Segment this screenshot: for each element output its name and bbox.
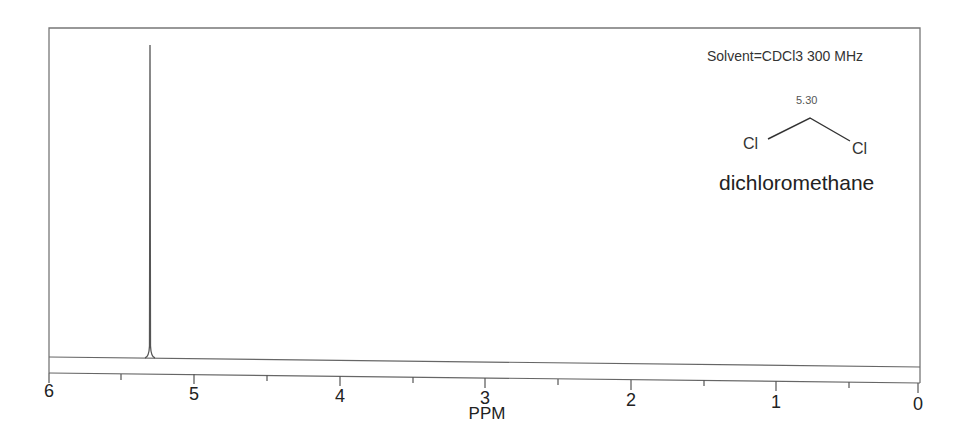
solvent-annotation: Solvent=CDCl3 300 MHz (707, 48, 863, 64)
dichloromethane-structure-bonds (768, 118, 850, 141)
spectrum-peak (145, 45, 155, 358)
chemical-shift-label: 5.30 (796, 94, 817, 106)
compound-name: dichloromethane (719, 171, 874, 195)
x-tick-label-6: 6 (44, 381, 54, 402)
x-tick-label-4: 4 (335, 386, 345, 407)
x-tick-label-1: 1 (771, 392, 781, 413)
spectrum-baseline (49, 357, 920, 367)
nmr-spectrum-plot (0, 0, 968, 444)
x-axis-title: PPM (469, 404, 506, 424)
x-tick-label-2: 2 (626, 390, 636, 411)
plot-frame (49, 28, 920, 383)
x-tick-label-5: 5 (189, 384, 199, 405)
atom-label-cl-left: Cl (743, 135, 758, 153)
x-tick-label-0: 0 (913, 394, 923, 415)
atom-label-cl-right: Cl (852, 140, 867, 158)
